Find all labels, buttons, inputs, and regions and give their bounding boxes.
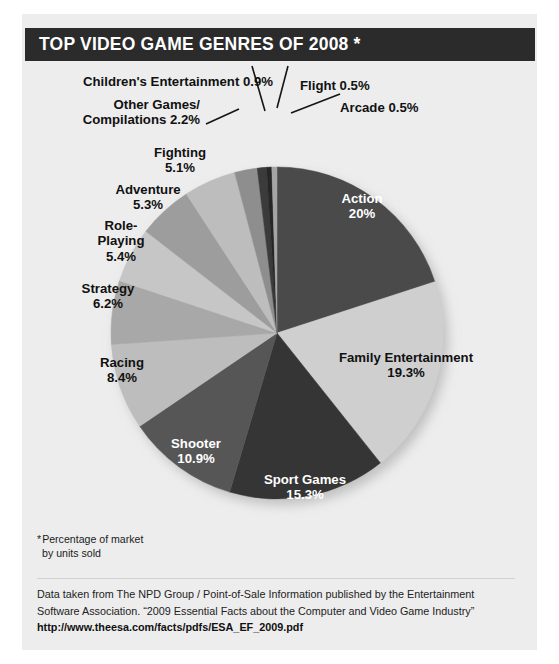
label-shooter: Shooter 10.9% <box>148 436 244 467</box>
label-other-games-compilations: Other Games/ Compilations 2.2% <box>0 97 200 128</box>
footnote: *Percentage of market by units sold <box>37 533 143 561</box>
label-children-entertainment: Children's Entertainment 0.9% <box>83 74 273 89</box>
source-citation: Data taken from The NPD Group / Point-of… <box>37 586 523 636</box>
leader-line-other-games <box>206 109 239 124</box>
label-flight: Flight 0.5% <box>300 78 370 93</box>
title-bar: TOP VIDEO GAME GENRES OF 2008 * <box>25 28 535 61</box>
page-title: TOP VIDEO GAME GENRES OF 2008 * <box>25 34 361 55</box>
label-sport-games: Sport Games 15.3% <box>240 472 370 503</box>
source-line-2: Software Association. “2009 Essential Fa… <box>37 603 523 620</box>
footnote-marker: * <box>37 533 41 545</box>
label-family-entertainment: Family Entertainment 19.3% <box>318 350 494 381</box>
label-role-playing: Role- Playing 5.4% <box>78 218 164 264</box>
source-line-1: Data taken from The NPD Group / Point-of… <box>37 586 523 603</box>
pie-chart: Children's Entertainment 0.9% Flight 0.5… <box>0 61 559 521</box>
footnote-line-2: by units sold <box>37 547 143 561</box>
label-fighting: Fighting 5.1% <box>135 145 225 176</box>
leader-line-arcade <box>291 94 340 113</box>
label-adventure: Adventure 5.3% <box>95 182 201 213</box>
source-url[interactable]: http://www.theesa.com/facts/pdfs/ESA_EF_… <box>37 619 523 636</box>
infographic-page: TOP VIDEO GAME GENRES OF 2008 * Ch <box>0 0 559 664</box>
footnote-line-1: *Percentage of market <box>37 533 143 547</box>
leader-line-flight <box>277 66 288 108</box>
label-racing: Racing 8.4% <box>78 355 166 386</box>
label-action: Action 20% <box>318 191 406 222</box>
divider <box>37 578 515 579</box>
label-arcade: Arcade 0.5% <box>340 100 418 115</box>
label-strategy: Strategy 6.2% <box>60 281 156 312</box>
